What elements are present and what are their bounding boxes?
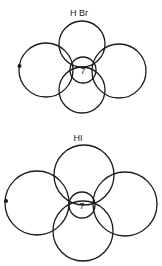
- hbr-diagram: H Br 7: [18, 8, 147, 113]
- right-orbital: [92, 44, 146, 98]
- hbr-label: H Br: [70, 8, 88, 18]
- valence-number: 7: [79, 201, 84, 211]
- hi-label: HI: [74, 133, 83, 143]
- top-orbital: [54, 145, 114, 205]
- molecule-diagrams: H Br 7 HI 7: [0, 0, 162, 266]
- left-orbital: [5, 171, 69, 235]
- valence-number: 7: [80, 66, 85, 76]
- hydrogen-dot: [18, 64, 22, 68]
- hydrogen-dot: [4, 199, 8, 203]
- top-orbital: [59, 21, 105, 67]
- left-orbital: [19, 43, 73, 97]
- hi-diagram: HI 7: [4, 133, 157, 261]
- right-orbital: [93, 172, 157, 236]
